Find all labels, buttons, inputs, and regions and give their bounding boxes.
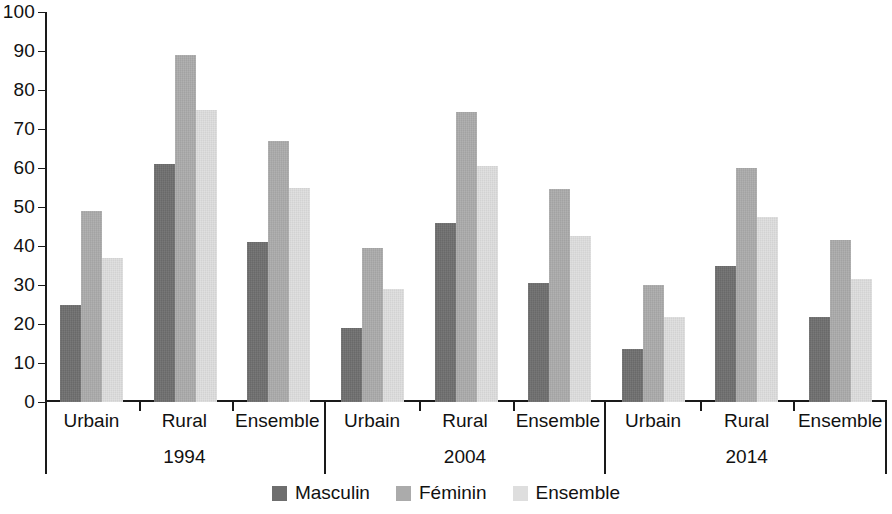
bar-1994-ensemble-feminin xyxy=(268,141,289,402)
bar-2004-urbain-masculin xyxy=(341,328,362,402)
bar-2014-ensemble-masculin xyxy=(809,317,830,402)
legend-item-masculin[interactable]: Masculin xyxy=(272,482,370,504)
period-year-label: 1994 xyxy=(45,440,324,474)
period-group-1994: UrbainRuralEnsemble1994 xyxy=(45,402,326,474)
y-axis-tick-mark xyxy=(38,51,45,52)
bar-2014-urbain-masculin xyxy=(622,349,643,402)
bar-2014-urbain-feminin xyxy=(643,285,664,402)
y-axis-tick-label: 60 xyxy=(13,157,35,179)
y-axis-tick-label: 30 xyxy=(13,274,35,296)
chart-legend: MasculinFémininEnsemble xyxy=(0,482,892,504)
y-axis-tick-label: 20 xyxy=(13,313,35,335)
y-axis-tick-label: 10 xyxy=(13,352,35,374)
category-axis-band: UrbainRuralEnsemble1994UrbainRuralEnsemb… xyxy=(45,402,887,474)
category-label-ensemble: Ensemble xyxy=(511,402,604,440)
category-label-rural: Rural xyxy=(138,402,231,440)
legend-label-feminin: Féminin xyxy=(419,482,487,504)
category-label-ensemble: Ensemble xyxy=(231,402,324,440)
bar-1994-urbain-feminin xyxy=(81,211,102,402)
bar-2014-ensemble-ensemble xyxy=(851,279,872,402)
legend-swatch-feminin-icon xyxy=(396,486,411,501)
y-axis-tick-mark xyxy=(38,246,45,247)
y-axis-tick-mark xyxy=(38,90,45,91)
chart-root: 1009080706050403020100 UrbainRuralEnsemb… xyxy=(0,0,892,514)
period-group-2004: UrbainRuralEnsemble2004 xyxy=(326,402,607,474)
bar-1994-urbain-masculin xyxy=(60,305,81,403)
y-axis-tick-mark xyxy=(38,402,45,403)
y-axis-tick-label: 100 xyxy=(3,1,35,23)
category-label-urbain: Urbain xyxy=(326,402,419,440)
y-axis-tick-mark xyxy=(38,285,45,286)
category-labels: UrbainRuralEnsemble xyxy=(606,402,887,440)
period-year-label: 2014 xyxy=(606,440,887,474)
period-group-2014: UrbainRuralEnsemble2014 xyxy=(606,402,887,474)
bar-2004-urbain-feminin xyxy=(362,248,383,402)
category-labels: UrbainRuralEnsemble xyxy=(326,402,605,440)
period-year-label: 2004 xyxy=(326,440,605,474)
plot-area: 1009080706050403020100 xyxy=(45,12,887,402)
y-axis-tick-mark xyxy=(38,12,45,13)
bar-2014-rural-ensemble xyxy=(757,217,778,402)
y-axis-tick-label: 50 xyxy=(13,196,35,218)
bar-1994-rural-feminin xyxy=(175,55,196,402)
bar-2004-ensemble-ensemble xyxy=(570,236,591,402)
y-axis-tick-mark xyxy=(38,363,45,364)
y-axis-tick-label: 40 xyxy=(13,235,35,257)
y-axis-tick-label: 80 xyxy=(13,79,35,101)
legend-swatch-ensemble-icon xyxy=(513,486,528,501)
bar-1994-ensemble-masculin xyxy=(247,242,268,402)
category-label-rural: Rural xyxy=(419,402,512,440)
category-label-ensemble: Ensemble xyxy=(793,402,887,440)
bar-2014-ensemble-feminin xyxy=(830,240,851,402)
bar-2004-ensemble-feminin xyxy=(549,189,570,402)
bar-1994-urbain-ensemble xyxy=(102,258,123,402)
bars-layer xyxy=(45,12,887,402)
y-axis-tick-label: 70 xyxy=(13,118,35,140)
bar-1994-rural-ensemble xyxy=(196,110,217,403)
y-axis-tick-mark xyxy=(38,168,45,169)
category-label-rural: Rural xyxy=(700,402,794,440)
bar-2004-rural-masculin xyxy=(435,223,456,402)
y-axis-tick-mark xyxy=(38,129,45,130)
legend-item-ensemble[interactable]: Ensemble xyxy=(513,482,621,504)
category-labels: UrbainRuralEnsemble xyxy=(45,402,324,440)
legend-item-feminin[interactable]: Féminin xyxy=(396,482,487,504)
bar-2004-ensemble-masculin xyxy=(528,283,549,402)
legend-label-ensemble: Ensemble xyxy=(536,482,621,504)
y-axis-tick-label: 90 xyxy=(13,40,35,62)
category-label-urbain: Urbain xyxy=(45,402,138,440)
bar-1994-ensemble-ensemble xyxy=(289,188,310,403)
bar-2004-urbain-ensemble xyxy=(383,289,404,402)
bar-2014-urbain-ensemble xyxy=(664,317,685,402)
bar-2014-rural-masculin xyxy=(715,266,736,403)
bar-1994-rural-masculin xyxy=(154,164,175,402)
bar-2014-rural-feminin xyxy=(736,168,757,402)
y-axis-tick-mark xyxy=(38,207,45,208)
legend-label-masculin: Masculin xyxy=(295,482,370,504)
bar-2004-rural-ensemble xyxy=(477,166,498,402)
legend-swatch-masculin-icon xyxy=(272,486,287,501)
category-label-urbain: Urbain xyxy=(606,402,700,440)
y-axis-tick-mark xyxy=(38,324,45,325)
bar-2004-rural-feminin xyxy=(456,112,477,402)
y-axis-tick-label: 0 xyxy=(24,391,35,413)
